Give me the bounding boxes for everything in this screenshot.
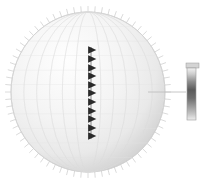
chart-svg	[0, 0, 214, 185]
figure-canvas	[0, 0, 214, 185]
colorbar-scale[interactable]	[187, 68, 196, 120]
colorbar	[186, 63, 199, 120]
colorbar-cap	[186, 63, 199, 68]
sphere-body	[11, 12, 165, 172]
